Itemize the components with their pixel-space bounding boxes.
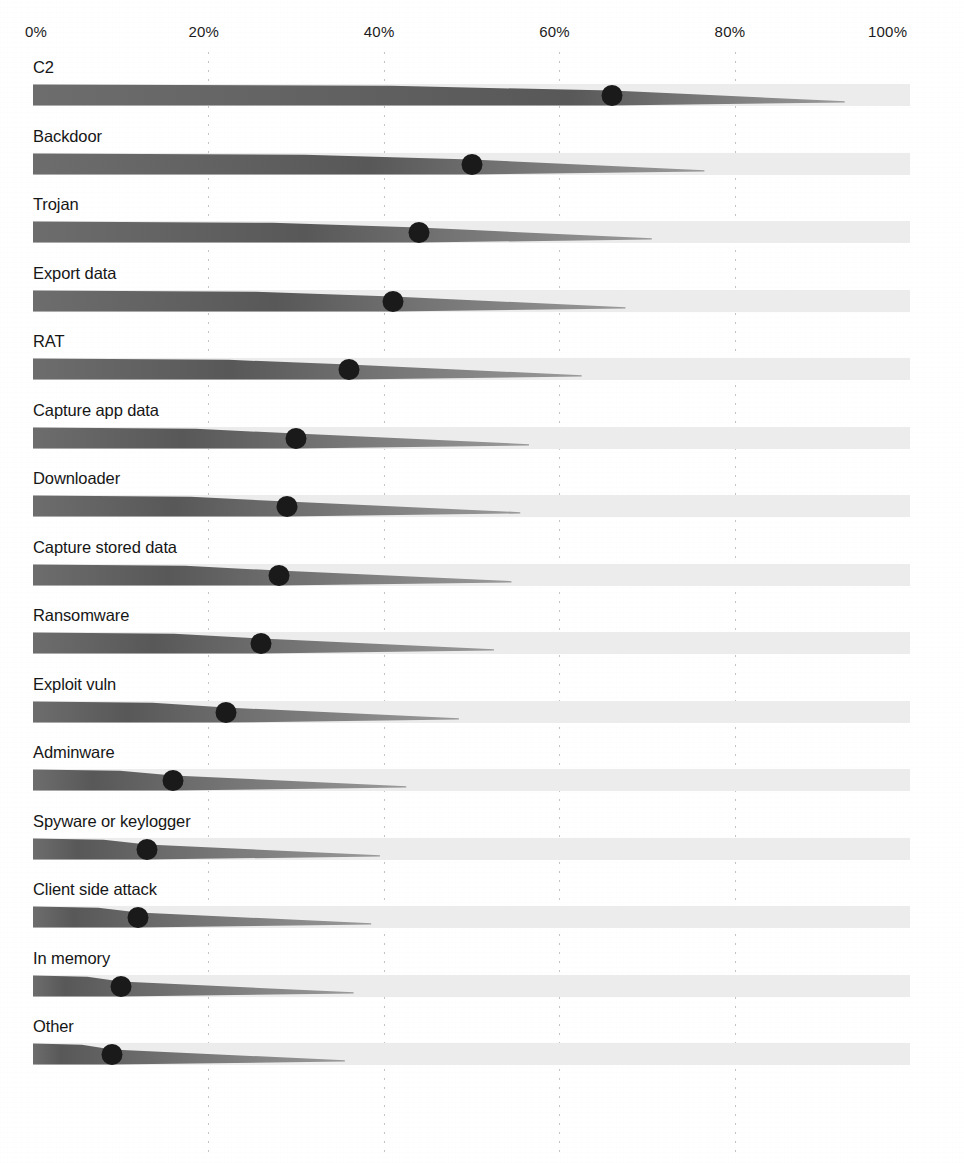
bar-row: Ransomware bbox=[0, 606, 964, 674]
axis-tick-label-0: 0% bbox=[25, 24, 47, 40]
bar-row: Client side attack bbox=[0, 880, 964, 948]
bar-wedge bbox=[33, 427, 910, 449]
bar-value-marker bbox=[277, 496, 298, 517]
bar-value-marker bbox=[137, 839, 158, 860]
axis-tick-label-100: 100% bbox=[868, 24, 907, 40]
bar-track-wrapper bbox=[33, 769, 910, 791]
bar-value-marker bbox=[286, 428, 307, 449]
bar-row: In memory bbox=[0, 949, 964, 1017]
bar-category-label: Adminware bbox=[33, 743, 115, 762]
bar-row: C2 bbox=[0, 58, 964, 126]
bar-row: RAT bbox=[0, 332, 964, 400]
bar-wedge bbox=[33, 358, 910, 380]
bar-category-label: Export data bbox=[33, 264, 116, 283]
bar-category-label: Downloader bbox=[33, 469, 120, 488]
bar-wedge bbox=[33, 84, 910, 106]
bar-value-marker bbox=[268, 565, 289, 586]
bar-category-label: Exploit vuln bbox=[33, 675, 116, 694]
bar-category-label: C2 bbox=[33, 58, 54, 77]
bar-track-wrapper bbox=[33, 564, 910, 586]
bar-track-wrapper bbox=[33, 427, 910, 449]
bar-row: Export data bbox=[0, 264, 964, 332]
bar-row: Spyware or keylogger bbox=[0, 812, 964, 880]
bar-value-marker bbox=[215, 702, 236, 723]
axis-tick-label-60: 60% bbox=[539, 24, 570, 40]
bar-wedge bbox=[33, 632, 910, 654]
bar-track-wrapper bbox=[33, 358, 910, 380]
bar-row: Adminware bbox=[0, 743, 964, 811]
bar-track-wrapper bbox=[33, 84, 910, 106]
bar-track-wrapper bbox=[33, 975, 910, 997]
bar-wedge bbox=[33, 701, 910, 723]
bar-wedge bbox=[33, 975, 910, 997]
bar-value-marker bbox=[251, 633, 272, 654]
bar-value-marker bbox=[128, 907, 149, 928]
x-axis: 0%20%40%60%80%100% bbox=[0, 0, 964, 52]
bar-track-wrapper bbox=[33, 221, 910, 243]
bar-row: Capture app data bbox=[0, 401, 964, 469]
bar-value-marker bbox=[461, 154, 482, 175]
bar-row: Capture stored data bbox=[0, 538, 964, 606]
bar-row: Downloader bbox=[0, 469, 964, 537]
bar-category-label: Capture app data bbox=[33, 401, 159, 420]
bar-track-wrapper bbox=[33, 701, 910, 723]
bar-category-label: Ransomware bbox=[33, 606, 129, 625]
axis-tick-label-40: 40% bbox=[364, 24, 395, 40]
bar-row: Other bbox=[0, 1017, 964, 1085]
bar-wedge bbox=[33, 221, 910, 243]
bar-track-wrapper bbox=[33, 1043, 910, 1065]
bar-value-marker bbox=[408, 222, 429, 243]
bar-track-wrapper bbox=[33, 153, 910, 175]
bar-value-marker bbox=[163, 770, 184, 791]
bar-value-marker bbox=[110, 976, 131, 997]
bar-value-marker bbox=[101, 1044, 122, 1065]
axis-tick-label-20: 20% bbox=[188, 24, 219, 40]
bar-category-label: Trojan bbox=[33, 195, 79, 214]
bar-wedge bbox=[33, 906, 910, 928]
axis-tick-label-80: 80% bbox=[715, 24, 746, 40]
bar-wedge bbox=[33, 564, 910, 586]
bar-row: Exploit vuln bbox=[0, 675, 964, 743]
bar-track-wrapper bbox=[33, 906, 910, 928]
bar-value-marker bbox=[382, 291, 403, 312]
bar-category-label: Other bbox=[33, 1017, 74, 1036]
bar-value-marker bbox=[601, 85, 622, 106]
bar-category-label: Capture stored data bbox=[33, 538, 177, 557]
bar-wedge bbox=[33, 838, 910, 860]
bar-row: Backdoor bbox=[0, 127, 964, 195]
bar-row: Trojan bbox=[0, 195, 964, 263]
bar-category-label: RAT bbox=[33, 332, 64, 351]
bar-track-wrapper bbox=[33, 838, 910, 860]
bar-wedge bbox=[33, 495, 910, 517]
malware-action-chart: 0%20%40%60%80%100% C2BackdoorTrojanExpor… bbox=[0, 0, 964, 1163]
bar-category-label: Client side attack bbox=[33, 880, 157, 899]
bar-value-marker bbox=[338, 359, 359, 380]
bar-track-wrapper bbox=[33, 495, 910, 517]
bar-category-label: Spyware or keylogger bbox=[33, 812, 191, 831]
bar-track-wrapper bbox=[33, 632, 910, 654]
bar-wedge bbox=[33, 290, 910, 312]
bar-category-label: Backdoor bbox=[33, 127, 102, 146]
bar-category-label: In memory bbox=[33, 949, 110, 968]
bar-track-wrapper bbox=[33, 290, 910, 312]
bar-wedge bbox=[33, 1043, 910, 1065]
